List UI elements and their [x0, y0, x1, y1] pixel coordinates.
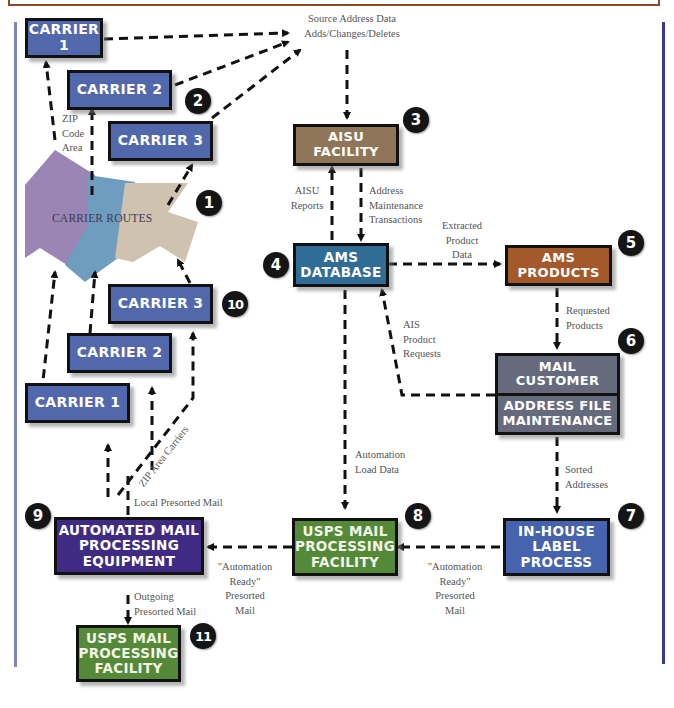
- usps-mail-processing-facility-8-box: USPS MAIL PROCESSING FACILITY: [292, 518, 398, 576]
- step-badge-6: 6: [618, 328, 644, 354]
- zip-code-area-label: ZIP Code Area: [62, 112, 84, 156]
- ais-product-requests-label: AIS Product Requests: [403, 318, 441, 362]
- step-badge-8: 8: [405, 503, 431, 529]
- aisu-facility-box: AISU FACILITY: [293, 124, 399, 166]
- step-badge-10: 10: [222, 291, 248, 317]
- step-badge-9: 9: [25, 503, 51, 529]
- step-badge-1: 1: [196, 190, 222, 216]
- carrier-3-top-box: CARRIER 3: [108, 121, 213, 161]
- ams-database-box: AMS DATABASE: [293, 243, 389, 287]
- aisu-reports-label: AISU Reports: [286, 184, 328, 213]
- carrier-1-bottom-box: CARRIER 1: [25, 383, 130, 423]
- automation-ready-presorted-mail-left-label: "Automation Ready" Presorted Mail: [210, 560, 280, 619]
- mail-customer-box: MAIL CUSTOMER ADDRESS FILE MAINTENANCE: [495, 353, 620, 435]
- step-badge-7: 7: [618, 503, 644, 529]
- step-badge-11: 11: [190, 623, 216, 649]
- step-badge-2: 2: [185, 88, 211, 114]
- automation-ready-presorted-mail-right-label: "Automation Ready" Presorted Mail: [415, 560, 495, 619]
- step-badge-5: 5: [618, 230, 644, 256]
- carrier-3-bottom-box: CARRIER 3: [108, 284, 213, 324]
- step-badge-3: 3: [403, 107, 429, 133]
- mail-customer-label: MAIL CUSTOMER: [498, 356, 617, 393]
- carrier-routes-label: CARRIER ROUTES: [52, 212, 152, 224]
- address-file-maintenance-label: ADDRESS FILE MAINTENANCE: [498, 393, 617, 433]
- source-address-data-label: Source Address Data Adds/Changes/Deletes: [292, 12, 412, 41]
- carrier-2-top-box: CARRIER 2: [67, 70, 172, 110]
- sorted-addresses-label: Sorted Addresses: [565, 463, 608, 492]
- automation-load-data-label: Automation Load Data: [355, 448, 405, 477]
- address-maintenance-transactions-label: Address Maintenance Transactions: [369, 184, 423, 228]
- local-presorted-mail-label: Local Presorted Mail: [134, 496, 223, 511]
- step-badge-4: 4: [263, 252, 289, 278]
- carrier-2-bottom-box: CARRIER 2: [67, 333, 172, 373]
- inhouse-label-process-box: IN-HOUSE LABEL PROCESS: [503, 518, 610, 576]
- extracted-product-data-label: Extracted Product Data: [432, 219, 492, 263]
- carrier-1-top-box: CARRIER 1: [25, 18, 103, 58]
- requested-products-label: Requested Products: [566, 304, 610, 333]
- automated-mail-processing-equipment-box: AUTOMATED MAIL PROCESSING EQUIPMENT: [54, 517, 204, 575]
- usps-mail-processing-facility-11-box: USPS MAIL PROCESSING FACILITY: [76, 625, 181, 682]
- ams-products-box: AMS PRODUCTS: [505, 245, 612, 286]
- outgoing-presorted-mail-label: Outgoing Presorted Mail: [134, 590, 196, 619]
